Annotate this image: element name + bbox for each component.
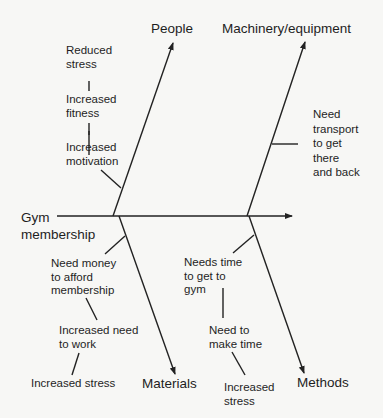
cause-machinery-1: Need transport to get there and back [313, 107, 360, 180]
cause-materials-1: Need money to afford membership [51, 257, 116, 298]
cause-people-3: Increased motivation [66, 141, 118, 168]
cause-methods-2: Need to make time [209, 324, 262, 351]
category-methods: Methods [297, 375, 349, 390]
cause-materials-3: Increased stress [31, 377, 115, 391]
cause-methods-3: Increased stress [224, 381, 275, 408]
cause-people-1: Reduced stress [66, 44, 112, 71]
cause-materials-2: Increased need to work [59, 324, 138, 351]
category-machinery: Machinery/equipment [222, 21, 351, 36]
cause-people-2: Increased fitness [66, 93, 117, 120]
machinery-bone [247, 42, 305, 216]
category-materials: Materials [142, 376, 197, 391]
effect-label: Gym membership [21, 209, 95, 243]
category-people: People [151, 21, 193, 36]
people-bone [113, 43, 173, 216]
cause-methods-1: Needs time to get to gym [184, 256, 242, 297]
